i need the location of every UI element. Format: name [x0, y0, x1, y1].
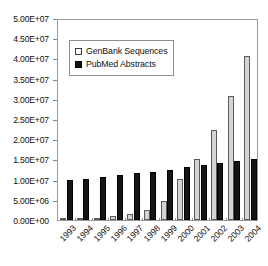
y-tick-label: 1.00E+07 — [13, 176, 49, 185]
bar-pubmed-1997 — [134, 173, 140, 220]
bar-genbank-1993 — [60, 218, 66, 220]
bar-genbank-2000 — [177, 179, 183, 220]
y-tick-label: 3.00E+07 — [13, 95, 49, 104]
bar-genbank-1997 — [127, 214, 133, 220]
bar-genbank-2003 — [228, 96, 234, 220]
y-tick-label: 3.50E+07 — [13, 75, 49, 84]
bar-pubmed-1998 — [150, 172, 156, 220]
bar-pubmed-1993 — [67, 180, 73, 220]
bar-pubmed-2004 — [251, 159, 257, 220]
bar-pubmed-2000 — [184, 167, 190, 220]
bar-genbank-1996 — [110, 216, 116, 220]
bar-genbank-2004 — [244, 56, 250, 220]
y-tick-label: 5.00E+07 — [13, 15, 49, 24]
legend-label-genbank: GenBank Sequences — [86, 47, 167, 56]
y-axis: 0.00E+005.00E+061.00E+071.50E+072.00E+07… — [0, 0, 55, 266]
light-square-swatch-icon — [75, 48, 82, 55]
y-tick-label: 2.50E+07 — [13, 116, 49, 125]
bar-pubmed-2001 — [201, 165, 207, 220]
y-tick-label: 2.00E+07 — [13, 136, 49, 145]
y-tick-label: 4.00E+07 — [13, 55, 49, 64]
bar-pubmed-1999 — [167, 170, 173, 220]
bar-group-2003 — [226, 20, 243, 220]
legend-item-pubmed: PubMed Abstracts — [75, 58, 167, 70]
bar-pubmed-1996 — [117, 175, 123, 220]
bar-genbank-1998 — [144, 210, 150, 221]
legend-label-pubmed: PubMed Abstracts — [86, 60, 156, 69]
bar-genbank-2002 — [211, 130, 217, 220]
bar-genbank-1999 — [161, 201, 167, 220]
bar-pubmed-2002 — [217, 163, 223, 220]
y-tick-label: 5.00E+06 — [13, 196, 49, 205]
bar-chart: 0.00E+005.00E+061.00E+071.50E+072.00E+07… — [0, 0, 268, 266]
bar-pubmed-1995 — [100, 177, 106, 220]
dark-square-swatch-icon — [75, 61, 82, 68]
y-tick-label: 1.50E+07 — [13, 156, 49, 165]
y-tick-label: 0.00E+00 — [13, 217, 49, 226]
bar-group-2000 — [175, 20, 192, 220]
bar-group-2002 — [209, 20, 226, 220]
y-tick-label: 4.50E+07 — [13, 35, 49, 44]
bar-genbank-1995 — [94, 218, 100, 220]
bar-pubmed-2003 — [234, 161, 240, 220]
legend-item-genbank: GenBank Sequences — [75, 45, 167, 57]
bar-group-2001 — [192, 20, 209, 220]
bar-genbank-1994 — [77, 218, 83, 220]
bar-group-2004 — [242, 20, 258, 220]
x-axis: 1993199419951996199719981999200020012002… — [57, 223, 258, 266]
bar-pubmed-1994 — [83, 179, 89, 220]
chart-legend: GenBank Sequences PubMed Abstracts — [69, 40, 174, 76]
bar-genbank-2001 — [194, 159, 200, 220]
